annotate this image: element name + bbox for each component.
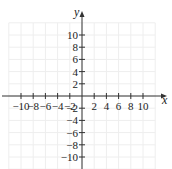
- x-tick-label: 8: [128, 100, 134, 112]
- x-tick-label: 4: [104, 100, 110, 112]
- y-axis-label: y: [73, 5, 80, 19]
- y-tick-label: −8: [66, 139, 78, 151]
- y-tick-label: −4: [66, 114, 78, 126]
- x-tick-label: −4: [52, 100, 64, 112]
- y-tick-label: −6: [66, 127, 78, 139]
- coordinate-plane: −10−8−6−4−2246810−10−8−6−4−2246810 x y: [0, 0, 172, 169]
- y-tick-label: 4: [73, 66, 79, 78]
- y-axis-arrow-icon: [80, 11, 85, 17]
- y-tick-label: −10: [61, 151, 79, 163]
- y-tick-label: 2: [73, 78, 79, 90]
- y-tick-label: −2: [66, 102, 78, 114]
- x-tick-label: 6: [116, 100, 122, 112]
- x-tick-label: −6: [40, 100, 52, 112]
- y-tick-label: 10: [67, 29, 79, 41]
- y-tick-label: 6: [73, 53, 79, 65]
- x-tick-label: 10: [138, 100, 150, 112]
- y-tick-label: 8: [73, 41, 79, 53]
- x-tick-label: −8: [27, 100, 39, 112]
- x-axis-label: x: [161, 93, 168, 107]
- x-tick-label: 2: [91, 100, 97, 112]
